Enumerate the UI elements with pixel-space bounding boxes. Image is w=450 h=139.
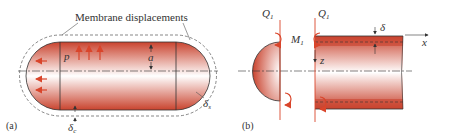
z-axis-label: z [319, 54, 325, 66]
panel-a: a p Membrane displacements δc δs (a) [6, 11, 218, 135]
panel-b-label: (b) [242, 120, 254, 132]
x-axis-label: x [421, 36, 427, 48]
delta-s-label: δs [203, 97, 211, 111]
radius-label: a [148, 51, 154, 63]
figure: a p Membrane displacements δc δs (a) [0, 0, 450, 139]
membrane-displacements-title: Membrane displacements [75, 11, 188, 23]
delta-c-label: δc [68, 121, 77, 135]
pressure-vessel [26, 42, 210, 110]
panel-a-label: (a) [6, 120, 17, 132]
m1-label: M1 [290, 33, 304, 47]
q1-left-label: Q1 [262, 7, 273, 21]
panel-b: Q1 Q1 M1 z x δ (b) [238, 7, 428, 132]
diagram-canvas: a p Membrane displacements δc δs (a) [0, 0, 450, 139]
q1-right-label: Q1 [318, 7, 329, 21]
pressure-label: p [63, 50, 70, 62]
thickness-label: δ [380, 21, 386, 33]
cylinder-shell [315, 36, 403, 109]
hemispherical-head [253, 42, 280, 101]
